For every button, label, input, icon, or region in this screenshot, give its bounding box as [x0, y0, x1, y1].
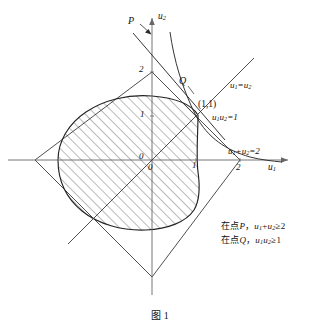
axis-label-u1: u1 [268, 163, 276, 173]
point-label-Q: Q [179, 76, 186, 86]
note-Q-prefix: 在点 [221, 235, 239, 245]
tick-x-1: 1 [192, 161, 197, 170]
note-Q-expr: u1u2≥1 [255, 235, 281, 245]
axis-label-u2: u2 [158, 12, 166, 22]
tick-y-2: 2 [139, 65, 144, 74]
note-Q-sep: ， [246, 235, 255, 245]
note-line-P: 在点P，u1+u2≥2 [221, 219, 285, 232]
tick-origin-below: 0 [148, 163, 153, 172]
point-label-intersection: (1,1) [198, 100, 216, 110]
note-P-expr: u1+u2≥2 [254, 221, 285, 231]
axis-label-u2-text: u2 [158, 11, 166, 21]
curve-label-u1-equals-u2: u1=u2 [230, 81, 251, 90]
curve-label-u1-plus-u2-equals-2: u1+u2=2 [228, 147, 260, 156]
hatched-convex-region [58, 96, 199, 230]
tick-y-1: 1 [140, 110, 145, 119]
figure-caption: 图 1 [0, 307, 320, 322]
tick-origin-left: 0 [139, 152, 144, 161]
note-P-prefix: 在点 [221, 221, 239, 231]
axis-label-u1-text: u1 [268, 162, 276, 172]
figure-container: u1 u2 0 0 1 2 1 2 P Q (1,1) u1=u2 u1u2=1… [0, 0, 320, 330]
p-pointer-arrow [140, 24, 152, 35]
curve-label-u1u2-equals-1: u1u2=1 [212, 113, 238, 122]
point-label-P: P [128, 16, 134, 26]
q-pointer [188, 86, 194, 94]
note-P-sep: ， [245, 221, 254, 231]
note-line-Q: 在点Q，u1u2≥1 [221, 233, 281, 246]
tick-x-2: 2 [236, 163, 241, 172]
